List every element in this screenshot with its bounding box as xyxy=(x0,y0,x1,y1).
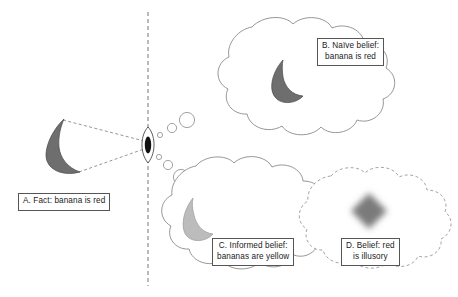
label-d-line-2: is illusory xyxy=(346,252,395,263)
label-a-fact: A. Fact: banana is red xyxy=(18,193,110,211)
label-c-line-2: bananas are yellow xyxy=(217,252,289,263)
label-b-line-2: banana is red xyxy=(322,52,379,63)
label-b-line-1: B. Naïve belief: xyxy=(322,41,379,52)
label-d-line-1: D. Belief: red xyxy=(346,241,395,252)
figure-canvas: A. Fact: banana is red B. Naïve belief: … xyxy=(0,0,458,297)
label-b-naive-belief: B. Naïve belief: banana is red xyxy=(317,38,384,66)
banana-shape-real xyxy=(46,119,80,174)
eye-icon xyxy=(142,127,154,163)
sight-lines xyxy=(63,120,144,172)
label-a-line-1: A. Fact: banana is red xyxy=(23,196,105,207)
thought-bubbles-naive xyxy=(157,112,194,137)
label-d-illusory-belief: D. Belief: red is illusory xyxy=(341,238,400,266)
thought-cloud-naive xyxy=(218,18,395,135)
label-c-informed-belief: C. Informed belief: bananas are yellow xyxy=(212,238,294,266)
label-c-line-1: C. Informed belief: xyxy=(217,241,289,252)
